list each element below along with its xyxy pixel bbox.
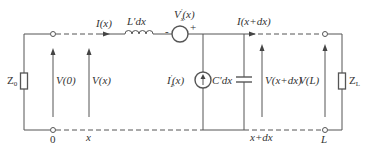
terminal-top-right (323, 32, 328, 37)
current-in-label: I(x) (95, 17, 112, 30)
capacitor-label: C′dx (212, 74, 232, 86)
inductor-icon (125, 31, 153, 35)
z0-resistor-icon (21, 73, 28, 89)
vxdx-label: V(x+dx) (265, 74, 302, 87)
current-out-label: I(x+dx) (236, 15, 271, 28)
current-in-arrowhead-icon (103, 32, 110, 37)
position-L-label: L (320, 133, 327, 145)
current-out-arrowhead-icon (249, 32, 256, 37)
voltage-source-plus: + (190, 21, 196, 33)
position-x-label: x (85, 131, 91, 143)
transmission-line-circuit-diagram: Z0 ZL I(x) L′dx Vx′(x) - + I(x+dx) Iz′(x… (0, 0, 368, 152)
terminal-bottom-right (323, 128, 328, 133)
current-source-label: Iz′(x) (166, 73, 184, 89)
zl-label: ZL (349, 74, 360, 88)
voltage-source-icon (172, 26, 188, 42)
current-source-arrowhead-icon (201, 74, 206, 79)
terminal-bottom-left (51, 128, 56, 133)
circuit-svg: Z0 ZL I(x) L′dx Vx′(x) - + I(x+dx) Iz′(x… (0, 0, 368, 152)
voltage-source-minus: - (165, 25, 169, 37)
vl-arrowhead-icon (323, 44, 328, 51)
vl-label: V(L) (299, 74, 320, 87)
v0-arrowhead-icon (51, 48, 56, 55)
zl-resistor-icon (339, 73, 346, 89)
vxdx-arrowhead-icon (260, 44, 265, 51)
terminal-top-left (51, 32, 56, 37)
z0-label: Z0 (7, 74, 18, 88)
vx-arrowhead-icon (87, 48, 92, 55)
vx-label: V(x) (92, 74, 111, 87)
v0-label: V(0) (56, 74, 76, 87)
position-xdx-label: x+dx (249, 131, 273, 143)
inductor-label: L′dx (126, 15, 146, 27)
position-0-label: 0 (50, 133, 56, 145)
